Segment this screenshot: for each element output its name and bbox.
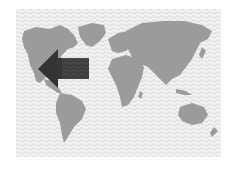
world-map-svg [16,9,221,157]
world-map [16,9,221,157]
